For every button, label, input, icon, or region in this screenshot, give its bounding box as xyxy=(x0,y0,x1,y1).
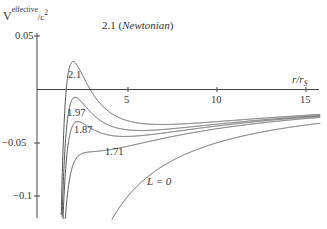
curve-1.71 xyxy=(65,117,320,218)
x-tick-label-15: 15 xyxy=(300,95,311,106)
curve-2.1 xyxy=(61,62,320,215)
curve-label-1.87: 1.87 xyxy=(74,125,92,136)
curve-label-2.1: 2.1 xyxy=(68,70,81,81)
curve-1.87 xyxy=(63,116,320,219)
curve-label-L0: L = 0 xyxy=(147,176,171,187)
effective-potential-plot xyxy=(0,0,327,229)
y-tick-label-0.05: 0.05 xyxy=(15,31,33,42)
x-axis-label: r/rS xyxy=(292,74,307,88)
y-axis-label: Veffective/c2 xyxy=(3,9,48,22)
curve-label-1.97: 1.97 xyxy=(67,108,85,119)
curve-1.97 xyxy=(62,97,320,217)
curve-label-1.71: 1.71 xyxy=(105,147,123,158)
potential-curves xyxy=(61,62,320,220)
newtonian-annotation: 2.1 (Newtonian) xyxy=(102,20,174,31)
x-tick-label-10: 10 xyxy=(211,95,222,106)
y-tick-label-neg-0.1: −0.1 xyxy=(13,191,32,202)
y-tick-label-neg-0.05: −0.05 xyxy=(2,138,26,149)
x-tick-label-5: 5 xyxy=(124,95,129,106)
curve-L0 xyxy=(112,123,320,219)
